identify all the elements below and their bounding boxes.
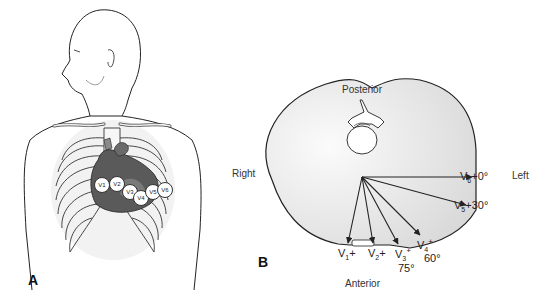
panel-a-torso: V1 V2 V3 V4 V5 V6 A bbox=[0, 0, 240, 300]
lead-angle-v3: 75° bbox=[398, 262, 415, 274]
head-outline bbox=[62, 10, 141, 116]
electrode-v1: V1 bbox=[94, 177, 110, 193]
lead-label-v6: V6+0° bbox=[460, 170, 488, 184]
thorax-outline bbox=[266, 79, 476, 248]
lead-label-v1: V1+ bbox=[338, 247, 356, 261]
lead-label-v5: V5+30° bbox=[454, 199, 488, 213]
label-right: Right bbox=[232, 168, 255, 179]
torso-illustration bbox=[0, 0, 240, 300]
label-posterior: Posterior bbox=[342, 84, 382, 95]
lead-label-v4: V4+ bbox=[417, 237, 433, 253]
lead-label-v2: V2+ bbox=[368, 247, 386, 261]
panel-letter-a: A bbox=[28, 272, 38, 288]
panel-b-cross-section: Posterior Anterior Right Left V6+0° V5+3… bbox=[240, 0, 544, 300]
label-anterior: Anterior bbox=[345, 278, 380, 289]
lead-label-v3: V3+ bbox=[395, 246, 411, 262]
lead-angle-v4: 60° bbox=[424, 252, 441, 264]
panel-letter-b: B bbox=[258, 254, 268, 270]
label-left: Left bbox=[512, 170, 529, 181]
thorax-cross-section bbox=[240, 0, 544, 300]
electrode-v6: V6 bbox=[157, 182, 173, 198]
